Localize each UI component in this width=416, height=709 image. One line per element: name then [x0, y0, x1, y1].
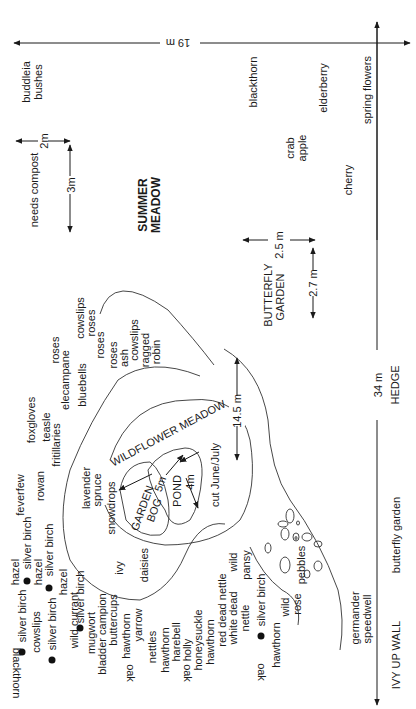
silver-birch-7-label: silver birch: [255, 574, 267, 627]
nettles-label: nettles: [146, 630, 158, 663]
wild-rose-label-1: wild: [279, 598, 291, 618]
wild-pansy-label-2: pansy: [240, 550, 252, 580]
summer-meadow-label-2: MEADOW: [149, 176, 163, 233]
hazel-1-label: hazel: [9, 559, 21, 585]
elderberry-label: elderberry: [317, 63, 329, 113]
hazel-3-label: hazel: [57, 569, 69, 595]
bushes-label: bushes: [32, 64, 44, 100]
yarrow-label: yarrow: [132, 608, 144, 641]
ivy-wall-label: IVY UP WALL: [390, 621, 402, 689]
butterfly-garden-label-2: GARDEN: [274, 273, 286, 320]
daisies-label: daisies: [138, 547, 150, 582]
germander-label-1: germander: [349, 591, 361, 645]
fritillaries-label: fritillaries: [50, 423, 62, 467]
svg-text:3m: 3m: [65, 177, 77, 192]
garden-plan-diagram: 19 m 34 m HEDGE spring flowers butterfly…: [0, 0, 416, 709]
snowdrops-label: snowdrops: [105, 481, 117, 535]
silver-birch-5-marker: [49, 657, 56, 664]
silver-birch-2-label: silver birch: [43, 524, 55, 577]
silver-birch-4-label: silver birch: [16, 590, 28, 643]
pond-height-label: 4m: [184, 474, 196, 489]
blackthorn-top-label: blackthorn: [247, 57, 259, 108]
svg-text:14.5 m: 14.5 m: [231, 394, 243, 428]
width-dimension: 19 m: [14, 37, 410, 49]
foxgloves-label: foxgloves: [25, 396, 37, 443]
blackthorn-bottom-label: blackthorn: [11, 648, 23, 699]
white-dead-label: white dead: [227, 591, 239, 645]
honeysuckle-label: honeysuckle: [192, 609, 204, 670]
wild-pansy-label-1: wild: [227, 553, 239, 573]
germander-label-2: speedwell: [361, 595, 373, 644]
bluebells-label: bluebells: [76, 363, 88, 407]
buddleia-label: buddleia: [20, 60, 32, 102]
hedge-line: 34 m HEDGE: [372, 22, 401, 705]
length-label: 34 m: [372, 373, 384, 397]
pond-label: POND: [171, 475, 183, 507]
pebbles-label: pebbles: [295, 545, 307, 584]
compost-dimensions: 2m 3m: [16, 133, 77, 232]
ragged-robin-label-2: robin: [150, 340, 162, 364]
spruce-label: spruce: [91, 473, 103, 506]
elecampane-label: elecampane: [59, 350, 71, 410]
svg-text:2.7 m: 2.7 m: [307, 269, 319, 297]
needs-compost-label: needs compost: [28, 153, 40, 228]
pond-dimension-5m: [166, 455, 183, 475]
pebbles-area: [265, 509, 322, 578]
oak-1-label: oak: [125, 664, 137, 682]
svg-text:2.5 m: 2.5 m: [273, 231, 285, 259]
butterfly-garden-edge-label: butterfly garden: [390, 497, 402, 573]
roses-b-label: roses: [94, 331, 106, 358]
buttercups-label: buttercups: [107, 594, 119, 646]
cherry-label: cherry: [342, 164, 354, 195]
hawthorn-1-label: hawthorn: [120, 613, 132, 658]
silver-birch-3-marker: [77, 625, 84, 632]
meadow-depth-dimension: 14.5 m: [229, 358, 245, 460]
silver-birch-1-marker: [24, 578, 31, 585]
wild-rose-label-2: rose: [291, 593, 303, 614]
feverfew-label: feverfew: [14, 474, 26, 516]
silver-birch-5-label: silver birch: [46, 598, 58, 651]
cowslips-c-label: cowslips: [30, 611, 42, 653]
svg-text:2m: 2m: [38, 133, 50, 148]
crab-apple-label-1: crab: [284, 137, 296, 158]
hedge-label: HEDGE: [389, 365, 401, 404]
silver-birch-2-marker: [46, 585, 53, 592]
hawthorn-4-label: hawthorn: [270, 622, 282, 667]
width-label: 19 m: [166, 37, 190, 49]
nettle-label: nettle: [239, 605, 251, 632]
silver-birch-7-marker: [258, 633, 265, 640]
spring-flowers-label: spring flowers: [361, 56, 373, 124]
cut-june-july-label: cut June/July: [209, 442, 221, 507]
pond-dimension-4m: [180, 452, 199, 462]
rowan-label: rowan: [34, 471, 46, 501]
crab-apple-label-2: apple: [296, 135, 308, 162]
oak-3-label: oak: [256, 663, 268, 681]
ivy-label: ivy: [113, 561, 125, 575]
summer-meadow-label-1: SUMMER: [136, 178, 150, 232]
butterfly-garden-label-1: BUTTERFLY: [262, 263, 274, 327]
hawthorn-3-label: hawthorn: [204, 619, 216, 664]
